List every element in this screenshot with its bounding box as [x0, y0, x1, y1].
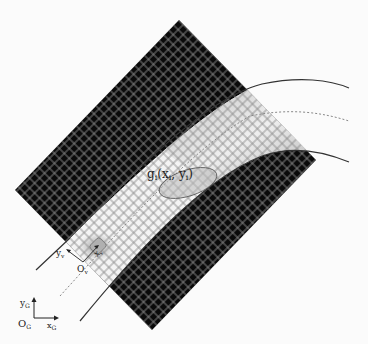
global-x-label: xG: [47, 321, 57, 331]
global-origin-label: OG: [18, 318, 31, 330]
vehicle-y-label: yv: [55, 248, 65, 259]
diagram-canvas: gi(xi, yi) yv xv Ov yG OG xG: [0, 0, 368, 344]
global-y-arrow-icon: [32, 297, 37, 302]
global-y-label: yG: [19, 298, 30, 309]
global-x-arrow-icon: [54, 316, 59, 321]
global-frame: yG OG xG: [18, 297, 59, 331]
vehicle-origin-label: Ov: [77, 264, 88, 275]
